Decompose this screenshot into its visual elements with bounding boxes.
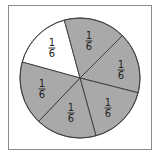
fraction-label: 16 (105, 97, 112, 119)
pie-chart: 161616161616 (0, 0, 161, 161)
fraction-numerator: 1 (49, 37, 55, 48)
fraction-numerator: 1 (68, 102, 74, 113)
fraction-denominator: 6 (39, 89, 45, 100)
fraction-numerator: 1 (39, 78, 45, 89)
fraction-numerator: 1 (118, 59, 124, 70)
fraction-label: 16 (39, 78, 46, 100)
fraction-label: 16 (86, 30, 93, 52)
fraction-denominator: 6 (118, 70, 124, 81)
fraction-denominator: 6 (86, 41, 92, 52)
fraction-denominator: 6 (105, 108, 111, 119)
fraction-numerator: 1 (86, 30, 92, 41)
fraction-numerator: 1 (105, 97, 111, 108)
fraction-denominator: 6 (68, 113, 74, 124)
fraction-label: 16 (118, 59, 125, 81)
fraction-label: 16 (49, 37, 56, 59)
fraction-label: 16 (68, 102, 75, 124)
fraction-denominator: 6 (49, 48, 55, 59)
